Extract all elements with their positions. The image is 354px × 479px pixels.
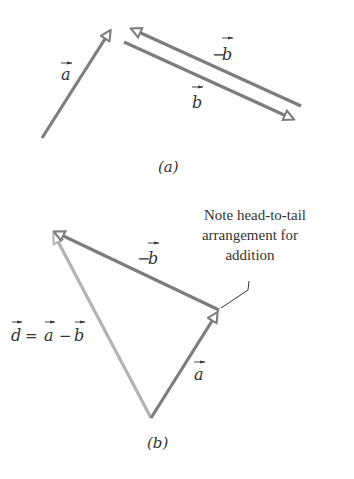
label-vector-neg-b: − b bbox=[212, 38, 233, 64]
label-equals-text: = bbox=[25, 327, 38, 345]
note-line-3: addition bbox=[225, 247, 275, 263]
part-a: a − b b (a) bbox=[42, 29, 301, 176]
vector-subtraction-diagram: a − b b (a) Note head-to-tail arrangemen… bbox=[0, 0, 354, 479]
label-vector-a: a bbox=[61, 63, 72, 84]
caption-a: (a) bbox=[158, 158, 179, 176]
label-d-equation: d = a − b bbox=[11, 322, 85, 345]
vector-neg-b-arrow bbox=[55, 232, 219, 310]
vector-a-arrow bbox=[151, 313, 217, 418]
label-d-text: d bbox=[11, 326, 21, 345]
note-line-1: Note head-to-tail bbox=[204, 207, 306, 223]
label-a-text: a bbox=[194, 365, 204, 384]
label-b-text: b bbox=[192, 93, 202, 112]
label-a-text: a bbox=[44, 326, 54, 345]
note-leader-line bbox=[221, 281, 249, 308]
note-line-2: arrangement for bbox=[202, 227, 298, 243]
label-vector-neg-b: − b bbox=[137, 243, 159, 268]
vector-b-arrow bbox=[124, 42, 293, 119]
label-b-text: b bbox=[74, 326, 84, 345]
note-text: Note head-to-tail arrangement for additi… bbox=[202, 207, 306, 263]
label-minus-text: − bbox=[59, 327, 72, 345]
vector-neg-b-arrow bbox=[132, 29, 301, 106]
label-b-text: b bbox=[222, 45, 232, 64]
caption-b: (b) bbox=[147, 434, 168, 452]
label-b-text: b bbox=[148, 249, 158, 268]
label-vector-b: b bbox=[192, 87, 203, 112]
vector-a-arrow bbox=[42, 31, 110, 138]
label-a-text: a bbox=[61, 65, 71, 84]
label-vector-a: a bbox=[194, 362, 205, 384]
part-b: Note head-to-tail arrangement for additi… bbox=[11, 207, 306, 452]
